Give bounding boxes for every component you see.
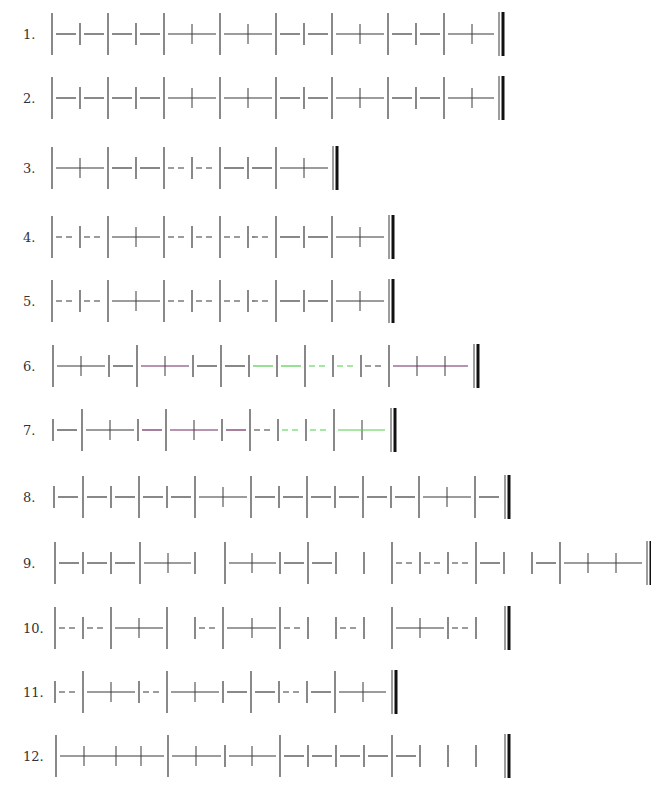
row-number-label: 1. bbox=[23, 27, 35, 42]
row-number-label: 8. bbox=[23, 490, 35, 505]
exercise-row-5 bbox=[52, 279, 393, 323]
exercise-row-7 bbox=[53, 408, 395, 452]
row-number-label: 4. bbox=[23, 230, 35, 245]
exercise-row-2 bbox=[52, 76, 503, 120]
row-number-label: 3. bbox=[23, 161, 35, 176]
row-number-label: 6. bbox=[23, 359, 35, 374]
exercise-row-8 bbox=[54, 475, 509, 519]
row-number-label: 7. bbox=[23, 423, 35, 438]
exercise-row-9 bbox=[55, 541, 651, 585]
exercise-row-3 bbox=[52, 146, 337, 190]
row-number-label: 11. bbox=[23, 685, 44, 700]
exercise-row-1 bbox=[52, 12, 503, 56]
row-number-label: 12. bbox=[23, 749, 44, 764]
exercise-row-10 bbox=[55, 606, 509, 650]
row-number-label: 9. bbox=[23, 556, 35, 571]
exercise-row-6 bbox=[53, 344, 478, 388]
exercise-row-12 bbox=[56, 734, 509, 778]
row-number-label: 2. bbox=[23, 91, 35, 106]
rhythm-notation-canvas bbox=[0, 0, 651, 795]
exercise-row-11 bbox=[55, 670, 396, 714]
row-number-label: 5. bbox=[23, 294, 35, 309]
exercise-row-4 bbox=[52, 215, 393, 259]
row-number-label: 10. bbox=[23, 621, 44, 636]
rhythm-exercise-sheet: 1.2.3.4.5.6.7.8.9.10.11.12. bbox=[0, 0, 651, 795]
